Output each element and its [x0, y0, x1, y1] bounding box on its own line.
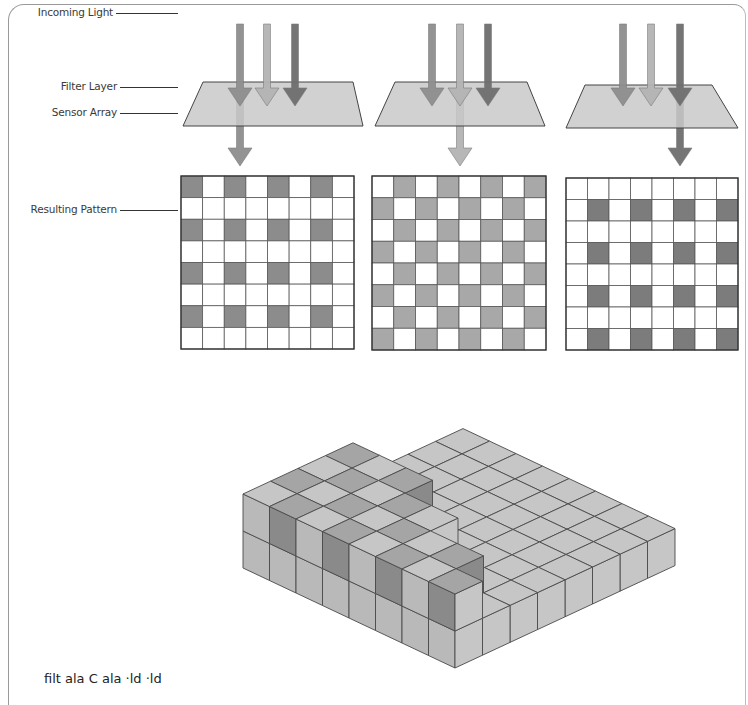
pattern-cell: [588, 200, 610, 222]
filter-panels: [181, 24, 738, 350]
pattern-cell: [332, 219, 354, 241]
pattern-cell: [717, 200, 739, 222]
incoming-light-arrow-icon: [420, 24, 444, 106]
pattern-cell: [437, 176, 459, 198]
pattern-cell: [246, 284, 268, 306]
pattern-cell: [717, 243, 739, 265]
pattern-cell: [609, 243, 631, 265]
pattern-cell: [437, 263, 459, 285]
pattern-cell: [481, 198, 503, 220]
pattern-cell: [289, 176, 311, 198]
pattern-cell: [181, 263, 203, 285]
pattern-cell: [181, 284, 203, 306]
pattern-cell: [566, 200, 588, 222]
pattern-cell: [459, 220, 481, 242]
pattern-cell: [203, 263, 225, 285]
pattern-cell: [437, 220, 459, 242]
pattern-cell: [652, 243, 674, 265]
pattern-cell: [372, 307, 394, 329]
incoming-light-arrow-icon: [283, 24, 307, 106]
pattern-cell: [631, 243, 653, 265]
pattern-cell: [181, 306, 203, 328]
pattern-cell: [674, 329, 696, 351]
pattern-cell: [481, 328, 503, 350]
pattern-cell: [652, 286, 674, 308]
pattern-cell: [311, 306, 333, 328]
pattern-cell: [246, 241, 268, 263]
pattern-cell: [695, 243, 717, 265]
pattern-cell: [524, 241, 546, 263]
pattern-cell: [524, 176, 546, 198]
pattern-cell: [717, 286, 739, 308]
pattern-cell: [588, 286, 610, 308]
pattern-cell: [503, 198, 525, 220]
pattern-cell: [503, 328, 525, 350]
pattern-cell: [503, 220, 525, 242]
pattern-cell: [181, 219, 203, 241]
pattern-cell: [268, 219, 290, 241]
pattern-cell: [372, 328, 394, 350]
pattern-cell: [416, 198, 438, 220]
pattern-cell: [588, 243, 610, 265]
pattern-cell: [631, 200, 653, 222]
pattern-cell: [224, 198, 246, 220]
pattern-cell: [717, 307, 739, 329]
pattern-cell: [588, 221, 610, 243]
pattern-cell: [372, 285, 394, 307]
pattern-cell: [416, 307, 438, 329]
incoming-light-arrow-icon: [639, 24, 663, 106]
pattern-cell: [416, 220, 438, 242]
pattern-cell: [609, 307, 631, 329]
pattern-cell: [289, 327, 311, 349]
pattern-cell: [224, 176, 246, 198]
pattern-cell: [289, 219, 311, 241]
pattern-cell: [372, 241, 394, 263]
incoming-light-arrow-icon: [476, 24, 500, 106]
pattern-cell: [609, 329, 631, 351]
pattern-cell: [311, 241, 333, 263]
pattern-cell: [481, 307, 503, 329]
incoming-light-arrow-icon: [668, 24, 692, 106]
incoming-light-arrow-icon: [611, 24, 635, 106]
pattern-cell: [203, 327, 225, 349]
panel-1: [181, 24, 363, 349]
pattern-cell: [609, 286, 631, 308]
pattern-cell: [203, 284, 225, 306]
pattern-cell: [459, 263, 481, 285]
incoming-light-arrow-icon: [255, 24, 279, 106]
pattern-cell: [416, 263, 438, 285]
pattern-cell: [695, 264, 717, 286]
pattern-cell: [566, 307, 588, 329]
pattern-cell: [717, 178, 739, 200]
pattern-cell: [503, 307, 525, 329]
pattern-cell: [394, 198, 416, 220]
pattern-cell: [224, 219, 246, 241]
pattern-cell: [674, 286, 696, 308]
pattern-cell: [695, 286, 717, 308]
pattern-cell: [717, 221, 739, 243]
pattern-cell: [372, 198, 394, 220]
pattern-cell: [695, 178, 717, 200]
pattern-cell: [394, 176, 416, 198]
pattern-cell: [394, 328, 416, 350]
pattern-cell: [394, 220, 416, 242]
pattern-cell: [311, 219, 333, 241]
pattern-cell: [609, 200, 631, 222]
pattern-cell: [246, 327, 268, 349]
pattern-cell: [674, 243, 696, 265]
pattern-cell: [437, 307, 459, 329]
pattern-cell: [289, 198, 311, 220]
pattern-cell: [717, 264, 739, 286]
pattern-cell: [289, 263, 311, 285]
pattern-cell: [203, 219, 225, 241]
pattern-cell: [311, 198, 333, 220]
panel-3: [566, 24, 738, 350]
pattern-cell: [246, 263, 268, 285]
pattern-cell: [372, 263, 394, 285]
pattern-cell: [566, 221, 588, 243]
pattern-cell: [203, 198, 225, 220]
pattern-cell: [394, 285, 416, 307]
pattern-cell: [481, 285, 503, 307]
pattern-cell: [289, 241, 311, 263]
pattern-cell: [268, 176, 290, 198]
